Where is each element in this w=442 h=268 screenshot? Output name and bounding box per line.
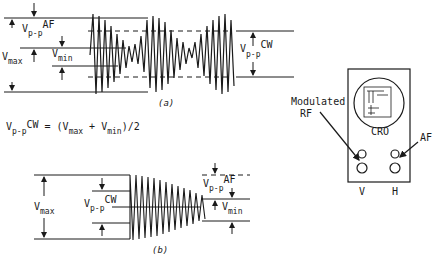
- label-vpp-af-b: Vp-pAF: [203, 174, 236, 193]
- label-vmin-b: Vmin: [222, 201, 243, 216]
- cro-screen-label: CRO: [371, 126, 389, 137]
- label-vpp-cw-a: Vp-pCW: [240, 39, 274, 59]
- input-label-modulated: Modulated: [291, 96, 345, 107]
- figure-a: [4, 3, 294, 94]
- label-vmax-a: Vmax: [2, 51, 23, 66]
- caption-a: (a): [158, 98, 174, 108]
- terminal-v-label: V: [359, 186, 365, 197]
- input-label-rf: RF: [300, 108, 312, 119]
- modulation-diagram: Vp-pAF Vmax Vmin Vp-pCW (a) Vp-pCW = (Vm…: [0, 0, 442, 268]
- input-label-af: AF: [420, 132, 432, 143]
- figure-b: [34, 163, 250, 240]
- label-vpp-cw-b: Vp-pCW: [84, 194, 118, 213]
- caption-b: (b): [152, 245, 168, 255]
- modulated-waveform-a: [90, 14, 234, 94]
- label-vmax-b: Vmax: [34, 201, 55, 216]
- formula-vpp-cw: Vp-pCW = (Vmax + Vmin)/2: [6, 119, 140, 136]
- label-vmin-a: Vmin: [52, 48, 73, 63]
- label-vpp-af-a: Vp-pAF: [22, 19, 55, 38]
- cro-oscilloscope: [320, 69, 418, 182]
- terminal-h-label: H: [392, 186, 398, 197]
